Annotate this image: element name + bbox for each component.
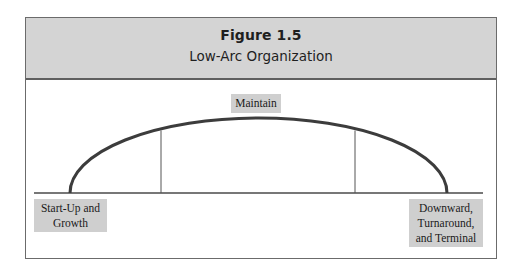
figure-number: Figure 1.5 — [26, 27, 496, 43]
stage-label-start-up-growth: Start-Up and Growth — [34, 199, 107, 232]
figure-title: Low-Arc Organization — [26, 48, 496, 64]
figure-header: Figure 1.5 Low-Arc Organization — [26, 18, 496, 80]
stage-label-downward-turnaround-terminal: Downward, Turnaround, and Terminal — [409, 199, 483, 247]
stage-label-maintain: Maintain — [231, 94, 281, 113]
